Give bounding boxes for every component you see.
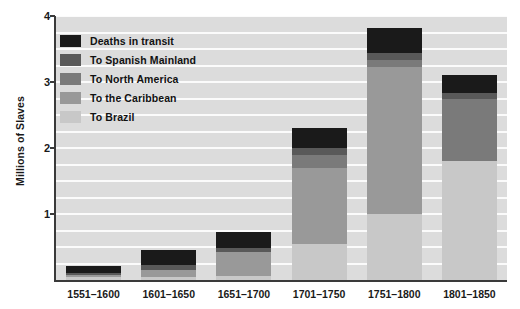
- gridline: [56, 246, 507, 248]
- bar-segment: [367, 67, 422, 214]
- bar-segment: [216, 232, 271, 249]
- bar-segment: [292, 128, 347, 148]
- legend-item: To Spanish Mainland: [60, 50, 196, 69]
- chart-figure: Millions of Slaves 1234 1551–16001601–16…: [0, 0, 520, 309]
- gridline: [56, 180, 507, 182]
- y-axis-title: Millions of Slaves: [14, 61, 26, 221]
- legend-item-label: To the Caribbean: [90, 92, 177, 104]
- bar-segment: [292, 168, 347, 244]
- gridline: [56, 164, 507, 166]
- legend-item: Deaths in transit: [60, 31, 196, 50]
- y-tick-label: 2: [28, 142, 50, 154]
- legend-item: To the Caribbean: [60, 88, 196, 107]
- legend-swatch-icon: [60, 35, 81, 47]
- bar-segment: [66, 266, 121, 274]
- x-tick-label: 1551–1600: [67, 288, 120, 300]
- x-tick-label: 1751–1800: [368, 288, 421, 300]
- gridline: [56, 263, 507, 265]
- gridline: [56, 131, 507, 133]
- gridline: [56, 16, 507, 17]
- bar: [442, 75, 497, 280]
- legend-item: To Brazil: [60, 107, 196, 126]
- bar-segment: [367, 28, 422, 53]
- bar: [367, 28, 422, 280]
- legend-swatch-icon: [60, 92, 81, 104]
- legend-swatch-icon: [60, 54, 81, 66]
- bar-segment: [367, 60, 422, 68]
- bar: [216, 232, 271, 280]
- gridline: [56, 147, 507, 149]
- x-tick-label: 1801–1850: [443, 288, 496, 300]
- gridline: [56, 230, 507, 232]
- legend-item-label: Deaths in transit: [90, 35, 174, 47]
- bar-segment: [141, 250, 196, 265]
- bar-segment: [216, 252, 271, 276]
- bar: [66, 266, 121, 280]
- legend-swatch-icon: [60, 111, 81, 123]
- x-tick-label: 1701–1750: [293, 288, 346, 300]
- bar-segment: [141, 270, 196, 277]
- legend-item: To North America: [60, 69, 196, 88]
- legend-item-label: To Spanish Mainland: [90, 54, 196, 66]
- bar-segment: [442, 75, 497, 93]
- y-tick-label: 3: [28, 76, 50, 88]
- x-tick-label: 1651–1700: [218, 288, 271, 300]
- bar-segment: [367, 214, 422, 280]
- y-tick-label: 4: [28, 10, 50, 22]
- y-tick-label: 1: [28, 208, 50, 220]
- bar-segment: [292, 148, 347, 155]
- legend-item-label: To Brazil: [90, 111, 134, 123]
- legend-item-label: To North America: [90, 73, 179, 85]
- bar-segment: [367, 53, 422, 60]
- gridline: [56, 197, 507, 199]
- legend: Deaths in transitTo Spanish MainlandTo N…: [60, 31, 196, 126]
- bar-segment: [442, 99, 497, 162]
- bar-segment: [292, 155, 347, 168]
- x-tick-label: 1601–1650: [142, 288, 195, 300]
- gridline: [56, 213, 507, 215]
- y-axis-line: [54, 16, 56, 280]
- bar-segment: [292, 244, 347, 280]
- legend-swatch-icon: [60, 73, 81, 85]
- bar-segment: [442, 161, 497, 280]
- bar: [141, 250, 196, 280]
- x-axis-line: [54, 280, 507, 282]
- bar: [292, 128, 347, 280]
